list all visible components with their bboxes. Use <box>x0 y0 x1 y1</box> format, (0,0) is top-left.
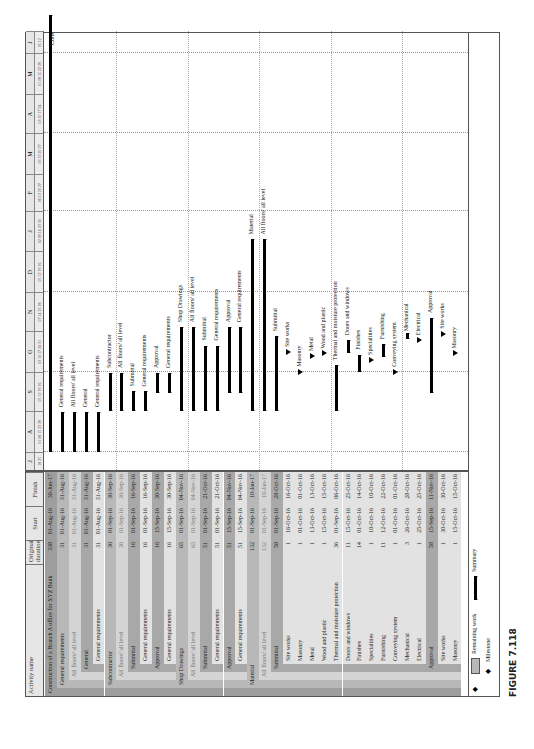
summary-bar[interactable] <box>347 340 350 353</box>
cell-finish: 10-Jan-17 <box>247 472 259 506</box>
cell-start: 01-Aug-16 <box>93 506 105 540</box>
summary-bar[interactable] <box>73 412 76 451</box>
table-row[interactable]: Mechanical326-Oct-1628-Oct-16 <box>402 472 414 696</box>
task-marker-icon[interactable] <box>417 337 422 343</box>
summary-bar[interactable] <box>97 412 100 451</box>
hierarchy-band <box>450 672 462 680</box>
summary-bar[interactable] <box>109 373 112 411</box>
table-row[interactable]: Metal113-Oct-1613-Oct-16 <box>307 472 319 696</box>
summary-bar[interactable] <box>49 15 52 451</box>
hierarchy-band <box>200 680 212 688</box>
timeline-month: A <box>26 411 35 452</box>
table-row[interactable]: Furnishing1112-Oct-1622-Oct-16 <box>378 472 390 696</box>
cell-start: 01-Sep-16 <box>247 506 259 540</box>
summary-bar[interactable] <box>358 355 361 372</box>
table-row[interactable]: Submittal5101-Sep-1621-Oct-16 <box>200 472 212 696</box>
activity-name: General requirements <box>57 563 69 685</box>
summary-bar[interactable] <box>335 365 338 411</box>
summary-bar[interactable] <box>61 412 64 451</box>
bar-label: General requirements <box>94 356 100 408</box>
summary-bar[interactable] <box>132 391 135 411</box>
table-row[interactable]: All floors/ all level6501-Sep-1604-Nov-1… <box>188 472 200 696</box>
cell-start: 15-Sep-16 <box>426 506 438 540</box>
table-row[interactable]: Doors and windows1115-Oct-1625-Oct-16 <box>343 472 355 696</box>
table-row[interactable]: General requirements1615-Sep-1630-Sep-16 <box>164 472 176 696</box>
hierarchy-band <box>402 672 414 680</box>
hierarchy-band <box>235 688 247 696</box>
table-row[interactable]: General requirements5101-Sep-1621-Oct-16 <box>212 472 224 696</box>
summary-bar[interactable] <box>85 412 88 451</box>
hierarchy-band <box>283 688 295 696</box>
summary-bar[interactable] <box>180 327 183 411</box>
table-row[interactable]: Subcontractor3001-Sep-1630-Sep-16 <box>105 472 117 696</box>
summary-bar[interactable] <box>156 373 159 393</box>
summary-bar[interactable] <box>275 336 278 411</box>
table-row[interactable]: Specialities110-Oct-1610-Oct-16 <box>366 472 378 696</box>
activity-name: Construction of a Branch A office for XY… <box>45 563 57 693</box>
table-row[interactable]: Finishes1401-Oct-1614-Oct-16 <box>354 472 366 696</box>
hierarchy-band <box>426 672 438 680</box>
table-row[interactable]: General requirements1601-Sep-1616-Sep-16 <box>140 472 152 696</box>
summary-bar[interactable] <box>144 391 147 411</box>
table-row[interactable]: Submittal1601-Sep-1616-Sep-16 <box>128 472 140 696</box>
task-marker-icon[interactable] <box>369 357 374 363</box>
table-row[interactable]: General requirements5115-Sep-1604-Nov-16 <box>235 472 247 696</box>
summary-bar[interactable] <box>382 344 385 357</box>
table-row[interactable]: Approval5815-Sep-1611-Nov-16 <box>426 472 438 696</box>
hierarchy-band <box>57 688 69 696</box>
task-marker-icon[interactable] <box>322 350 327 356</box>
table-row[interactable]: Electrical125-Oct-1625-Oct-16 <box>414 472 426 696</box>
table-row[interactable]: Construction of a Branch A office for XY… <box>45 472 57 696</box>
table-row[interactable]: Approval5115-Sep-1604-Nov-16 <box>224 472 236 696</box>
task-marker-icon[interactable] <box>453 350 458 356</box>
summary-bar[interactable] <box>239 327 242 393</box>
hierarchy-band <box>152 672 164 680</box>
activity-name: Wood and plastic <box>319 563 331 661</box>
table-row[interactable]: Wood and plastic115-Oct-1615-Oct-16 <box>319 472 331 696</box>
hierarchy-band <box>307 664 319 672</box>
cell-start: 01-Sep-16 <box>105 506 117 540</box>
hierarchy-band <box>343 680 355 688</box>
summary-bar[interactable] <box>120 373 123 411</box>
table-row[interactable]: General3101-Aug-1631-Aug-16 <box>81 472 93 696</box>
hierarchy-band <box>140 672 152 680</box>
table-row[interactable]: All floors/ all level13201-Sep-1610-Jan-… <box>259 472 271 696</box>
task-marker-icon[interactable] <box>298 369 303 375</box>
cell-start: 01-Sep-16 <box>259 506 271 540</box>
cell-start: 01-Oct-16 <box>354 506 366 540</box>
cell-start: 01-Sep-16 <box>331 506 343 540</box>
summary-bar[interactable] <box>228 327 231 393</box>
task-marker-icon[interactable] <box>310 353 315 359</box>
table-row[interactable]: Shop Drawings6501-Sep-1604-Nov-16 <box>176 472 188 696</box>
activity-name: All floors/ all level <box>69 563 81 677</box>
summary-bar[interactable] <box>168 373 171 393</box>
summary-bar[interactable] <box>251 239 254 411</box>
summary-bar[interactable] <box>430 318 433 393</box>
table-row[interactable]: Conveying system101-Oct-1601-Oct-16 <box>390 472 402 696</box>
table-row[interactable]: All floors/ all level3001-Sep-1630-Sep-1… <box>116 472 128 696</box>
hierarchy-band <box>402 664 414 672</box>
summary-bar[interactable] <box>263 239 266 411</box>
task-marker-icon[interactable] <box>393 369 398 375</box>
summary-bar[interactable] <box>204 346 207 412</box>
cell-dur: 16 <box>140 540 152 564</box>
task-marker-icon[interactable] <box>286 349 291 355</box>
activity-name: Submittal <box>128 563 140 669</box>
table-row[interactable]: Site works130-Oct-1630-Oct-16 <box>438 472 450 696</box>
table-row[interactable]: Masonry101-Oct-1601-Oct-16 <box>295 472 307 696</box>
hierarchy-band <box>212 688 224 696</box>
summary-bar[interactable] <box>216 346 219 412</box>
table-row[interactable]: Masonry115-Oct-1615-Oct-16 <box>450 472 462 696</box>
table-row[interactable]: General requirements3101-Aug-1631-Aug-16 <box>93 472 105 696</box>
summary-bar[interactable] <box>406 333 409 339</box>
activity-name: Electrical <box>414 563 426 661</box>
summary-bar[interactable] <box>192 327 195 411</box>
table-row[interactable]: Thermal and moisture protection3601-Sep-… <box>331 472 343 696</box>
table-row[interactable]: All floors/ all level3101-Aug-1631-Aug-1… <box>69 472 81 696</box>
table-row[interactable]: Approval1615-Sep-1630-Sep-16 <box>152 472 164 696</box>
table-row[interactable]: Material13201-Sep-1610-Jan-17 <box>247 472 259 696</box>
task-marker-icon[interactable] <box>441 331 446 337</box>
table-row[interactable]: Site works116-Oct-1616-Oct-16 <box>283 472 295 696</box>
table-row[interactable]: Submittal5801-Sep-1628-Oct-16 <box>271 472 283 696</box>
table-row[interactable]: General requirements3101-Aug-1631-Aug-16 <box>57 472 69 696</box>
